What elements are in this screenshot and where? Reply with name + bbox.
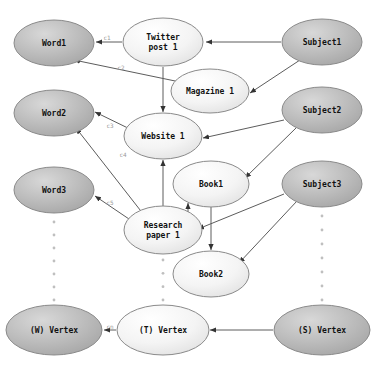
node-label: Subject2 bbox=[303, 105, 342, 115]
node-label: paper 1 bbox=[146, 231, 180, 240]
graph-node-magazine[interactable]: Magazine 1 bbox=[171, 69, 249, 113]
node-label: (S) Vertex bbox=[298, 326, 346, 335]
ellipsis-dot bbox=[53, 273, 56, 276]
node-label: Website 1 bbox=[141, 131, 185, 141]
edge-label: c5 bbox=[106, 199, 114, 206]
node-label: (T) Vertex bbox=[139, 326, 187, 335]
ellipsis-dot bbox=[162, 285, 165, 288]
dot-column bbox=[53, 221, 56, 302]
ellipsis-dot bbox=[321, 285, 324, 288]
ellipsis-dot bbox=[53, 286, 56, 289]
graph-diagram: Word1Word2Word3(W) VertexTwitterpost 1Ma… bbox=[0, 0, 374, 365]
node-label: Subject1 bbox=[303, 37, 342, 47]
ellipsis-dot bbox=[321, 271, 324, 274]
ellipsis-dot bbox=[321, 257, 324, 260]
node-label: Word3 bbox=[42, 186, 66, 195]
edge-label: c1 bbox=[103, 34, 111, 41]
ellipsis-dot bbox=[53, 234, 56, 237]
ellipsis-dot bbox=[162, 259, 165, 262]
ellipsis-dot bbox=[321, 229, 324, 232]
ellipsis-dot bbox=[321, 215, 324, 218]
node-label: Word1 bbox=[42, 39, 66, 48]
ellipsis-dot bbox=[53, 299, 56, 302]
node-label: Twitter bbox=[146, 32, 180, 42]
nodes-layer: Word1Word2Word3(W) VertexTwitterpost 1Ma… bbox=[6, 18, 370, 355]
node-label: Word2 bbox=[42, 109, 66, 118]
graph-node-word2[interactable]: Word2 bbox=[14, 90, 94, 136]
node-label: Research bbox=[144, 221, 183, 230]
graph-edge bbox=[245, 128, 296, 178]
node-label: Magazine 1 bbox=[186, 86, 234, 96]
edge-labels-layer: c1c2c3c4c5cn bbox=[103, 34, 127, 330]
ellipsis-dot bbox=[321, 243, 324, 246]
edge-label: c4 bbox=[119, 151, 127, 158]
graph-node-website[interactable]: Website 1 bbox=[124, 113, 202, 159]
graph-node-book1[interactable]: Book1 bbox=[173, 161, 249, 207]
ellipsis-dot bbox=[162, 299, 165, 302]
node-label: Book1 bbox=[199, 180, 223, 189]
graph-node-word3[interactable]: Word3 bbox=[14, 167, 94, 213]
graph-node-research[interactable]: Researchpaper 1 bbox=[124, 206, 202, 254]
graph-node-subject1[interactable]: Subject1 bbox=[282, 19, 362, 65]
graph-node-twitter[interactable]: Twitterpost 1 bbox=[123, 18, 203, 66]
node-label: post 1 bbox=[149, 43, 178, 52]
node-label: (W) Vertex bbox=[30, 326, 78, 335]
ellipsis-dot bbox=[53, 247, 56, 250]
graph-edge bbox=[203, 120, 284, 138]
dot-column bbox=[321, 215, 324, 302]
graph-node-wvertex[interactable]: (W) Vertex bbox=[6, 305, 102, 355]
graph-edge bbox=[239, 201, 297, 263]
graph-node-svertex[interactable]: (S) Vertex bbox=[274, 305, 370, 355]
edge-label: c3 bbox=[106, 122, 114, 129]
ellipsis-dot bbox=[321, 299, 324, 302]
edge-label: c2 bbox=[117, 64, 125, 71]
graph-node-subject3[interactable]: Subject3 bbox=[282, 161, 362, 207]
graph-canvas: Word1Word2Word3(W) VertexTwitterpost 1Ma… bbox=[0, 0, 374, 365]
node-label: Book2 bbox=[199, 270, 223, 279]
node-label: Subject3 bbox=[303, 179, 342, 189]
ellipsis-dot bbox=[53, 260, 56, 263]
graph-edge bbox=[250, 60, 300, 93]
dot-column bbox=[162, 259, 165, 302]
edge-label: cn bbox=[106, 323, 114, 330]
graph-node-book2[interactable]: Book2 bbox=[173, 251, 249, 297]
ellipsis-dot bbox=[162, 272, 165, 275]
ellipsis-dot bbox=[53, 221, 56, 224]
graph-node-subject2[interactable]: Subject2 bbox=[282, 87, 362, 133]
graph-node-tvertex[interactable]: (T) Vertex bbox=[117, 305, 209, 355]
graph-node-word1[interactable]: Word1 bbox=[14, 20, 94, 66]
